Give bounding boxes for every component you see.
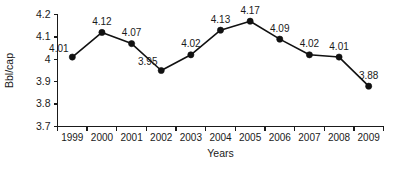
data-point-label: 4.01 xyxy=(49,43,69,54)
x-axis-tick-label: 2005 xyxy=(239,132,262,143)
y-axis-tick-label: 4.1 xyxy=(36,30,51,42)
data-point-marker xyxy=(247,18,253,24)
x-axis-tick-label: 2003 xyxy=(180,132,203,143)
data-point-label: 4.17 xyxy=(240,5,260,16)
data-point-label: 3.95 xyxy=(138,56,158,67)
data-point-label: 4.07 xyxy=(122,27,142,38)
data-point-marker xyxy=(158,67,164,73)
data-point-marker xyxy=(366,83,372,89)
y-axis-tick-label: 3.7 xyxy=(36,120,51,132)
y-axis-tick-label: 4 xyxy=(45,53,51,65)
x-axis-tick-label: 2006 xyxy=(269,132,292,143)
data-point-label: 4.09 xyxy=(270,23,290,34)
x-axis-tick-label: 2009 xyxy=(358,132,381,143)
data-point-marker xyxy=(188,52,194,58)
x-axis-tick-label: 1999 xyxy=(61,132,84,143)
x-axis-tick-label: 2000 xyxy=(91,132,114,143)
data-point-marker xyxy=(69,54,75,60)
y-axis-title: Bbl/cap xyxy=(3,53,15,88)
data-point-marker xyxy=(336,54,342,60)
line-chart: 4.24.143.93.83.7199920002001200220032004… xyxy=(0,0,405,170)
x-axis-tick-label: 2007 xyxy=(298,132,321,143)
data-point-marker xyxy=(306,52,312,58)
data-point-label: 4.01 xyxy=(329,41,349,52)
chart-canvas: 4.24.143.93.83.7199920002001200220032004… xyxy=(0,0,405,170)
x-axis-tick-label: 2002 xyxy=(150,132,173,143)
x-axis-tick-label: 2001 xyxy=(120,132,143,143)
data-point-marker xyxy=(277,36,283,42)
data-point-marker xyxy=(217,27,223,33)
x-axis-tick-label: 2004 xyxy=(209,132,232,143)
data-point-label: 4.13 xyxy=(211,14,231,25)
data-point-marker xyxy=(99,29,105,35)
y-axis-tick-label: 3.9 xyxy=(36,75,51,87)
data-point-label: 4.02 xyxy=(300,38,320,49)
y-axis-tick-label: 3.8 xyxy=(36,97,51,109)
x-axis-tick-label: 2008 xyxy=(328,132,351,143)
data-point-marker xyxy=(128,41,134,47)
data-point-label: 4.12 xyxy=(92,16,112,27)
y-axis-tick-label: 4.2 xyxy=(36,8,51,20)
data-point-label: 3.88 xyxy=(359,70,379,81)
data-point-label: 4.02 xyxy=(181,38,201,49)
x-axis-title: Years xyxy=(207,147,233,159)
